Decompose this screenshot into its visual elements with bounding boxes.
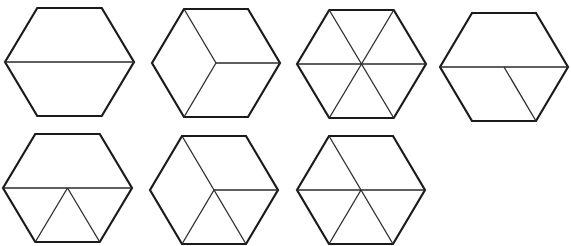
hexagon-4 <box>440 13 568 121</box>
partition-line <box>182 190 214 244</box>
partition-line <box>214 190 246 244</box>
hexagon-3 <box>297 10 426 118</box>
partition-line <box>361 190 393 244</box>
hexagon-6 <box>150 136 278 244</box>
partition-line <box>184 63 216 117</box>
partition-line <box>182 136 214 190</box>
hexagon-1 <box>5 8 134 116</box>
partition-line <box>184 9 216 63</box>
hexagon-2 <box>152 9 280 117</box>
partition-line <box>68 188 100 242</box>
hexagon-partitions-diagram <box>0 0 571 246</box>
partition-line <box>329 136 361 190</box>
partition-line <box>329 190 361 244</box>
hexagon-7 <box>297 136 425 244</box>
partition-line <box>504 67 536 121</box>
partition-line <box>35 188 67 242</box>
hexagon-5 <box>3 134 132 242</box>
